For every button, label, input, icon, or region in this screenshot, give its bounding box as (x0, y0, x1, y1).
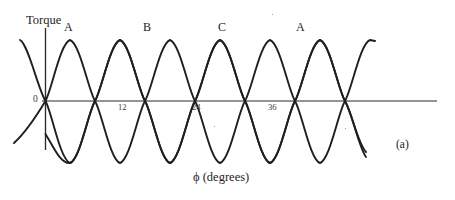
curve-label-phase-a-first: A (64, 21, 73, 33)
curve-label-phase-b: B (143, 21, 151, 33)
torque-angle-figure: Torque ϕ (degrees) A B C A 0 12 24 36 (a… (0, 0, 455, 200)
y-axis-title: Torque (26, 14, 61, 27)
figure-part-caption: (a) (396, 139, 409, 151)
scan-artifact-speck (272, 14, 273, 15)
scan-artifact-speck (214, 126, 215, 127)
curve-label-phase-a-second: A (296, 21, 305, 33)
x-axis-tick-label-24: 24 (192, 103, 201, 112)
curve-label-phase-c: C (218, 21, 226, 33)
scan-artifact-speck (345, 128, 346, 129)
x-axis-tick-label-12: 12 (118, 103, 127, 112)
y-axis-tick-label-0: 0 (33, 95, 38, 105)
x-axis-title: ϕ (degrees) (193, 171, 249, 184)
x-axis-tick-label-36: 36 (268, 103, 277, 112)
